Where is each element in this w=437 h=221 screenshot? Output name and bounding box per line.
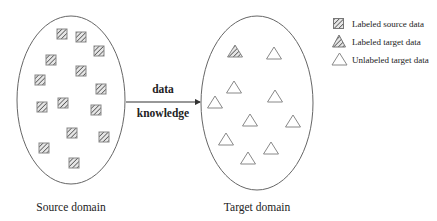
legend-label: Labeled source data — [352, 19, 424, 29]
labeled-source-square-icon — [94, 46, 104, 56]
hatched-triangle-icon — [333, 35, 346, 47]
labeled-source-square-icon — [91, 105, 101, 115]
unlabeled-target-triangle-icon — [219, 133, 234, 145]
labeled-source-square-icon — [76, 32, 86, 42]
labeled-source-square-icon — [57, 29, 67, 39]
labeled-source-square-icon — [37, 102, 47, 112]
unlabeled-target-triangle-icon — [241, 152, 256, 164]
labeled-target-triangle-icon — [228, 45, 243, 57]
legend: Labeled source data Labeled target data … — [332, 19, 429, 66]
unlabeled-target-triangle-icon — [267, 47, 282, 59]
unlabeled-target-triangle-icon — [268, 90, 283, 102]
transfer-learning-diagram: Source domain data knowledge Target doma… — [0, 0, 437, 221]
transfer-arrow: data knowledge — [126, 83, 200, 120]
target-data-points — [208, 45, 301, 164]
source-data-points — [35, 29, 109, 168]
labeled-source-square-icon — [67, 128, 77, 138]
legend-item-labeled-source: Labeled source data — [334, 19, 424, 30]
arrow-label-knowledge: knowledge — [137, 107, 189, 120]
arrow-label-data: data — [152, 83, 174, 95]
labeled-source-square-icon — [35, 75, 45, 85]
target-domain: Target domain — [201, 16, 313, 214]
labeled-source-square-icon — [69, 158, 79, 168]
source-domain-label: Source domain — [36, 201, 106, 213]
unlabeled-target-triangle-icon — [227, 81, 242, 93]
labeled-source-square-icon — [99, 132, 109, 142]
labeled-source-square-icon — [58, 98, 68, 108]
target-domain-label: Target domain — [224, 201, 291, 214]
legend-item-labeled-target: Labeled target data — [333, 35, 421, 47]
legend-item-unlabeled-target: Unlabeled target data — [332, 53, 429, 65]
unlabeled-target-triangle-icon — [243, 114, 258, 126]
unlabeled-target-triangle-icon — [264, 142, 279, 154]
unlabeled-target-triangle-icon — [286, 115, 301, 127]
labeled-source-square-icon — [76, 66, 86, 76]
source-domain: Source domain — [17, 16, 125, 213]
unlabeled-target-triangle-icon — [208, 96, 223, 108]
outline-triangle-icon — [332, 53, 347, 65]
hatched-square-icon — [334, 19, 344, 29]
target-domain-ellipse — [201, 16, 313, 190]
legend-label: Labeled target data — [352, 37, 421, 47]
legend-label: Unlabeled target data — [352, 55, 429, 65]
labeled-source-square-icon — [96, 84, 106, 94]
labeled-source-square-icon — [39, 143, 49, 153]
labeled-source-square-icon — [46, 55, 56, 65]
